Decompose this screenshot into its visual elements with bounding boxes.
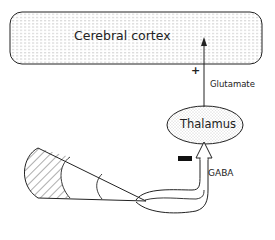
basal-ganglia-shape [24, 148, 146, 201]
glutamate-label: Glutamate [210, 79, 255, 89]
thalamus-label: Thalamus [180, 117, 236, 131]
gaba-label: GABA [208, 168, 233, 178]
gaba-pathway [136, 142, 212, 213]
cerebral-cortex-label: Cerebral cortex [74, 28, 171, 43]
excitatory-plus-sign: + [191, 64, 200, 77]
gaba-arrowhead [196, 142, 212, 158]
inhibitory-minus-sign [178, 156, 192, 161]
